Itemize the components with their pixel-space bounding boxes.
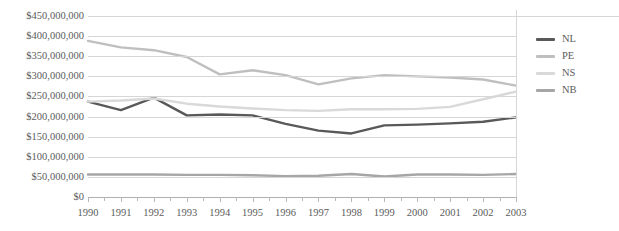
series-line-ns xyxy=(88,92,516,111)
x-axis-tick-label: 1996 xyxy=(275,208,296,219)
x-axis-tick xyxy=(516,197,517,202)
x-axis-tick xyxy=(318,197,319,202)
gridline xyxy=(88,137,516,138)
y-axis-tick-label: $400,000,000 xyxy=(2,31,84,42)
x-axis-tick xyxy=(417,197,418,202)
y-axis-labels: $450,000,000$400,000,000$350,000,000$300… xyxy=(0,0,84,231)
gridline xyxy=(88,96,516,97)
x-axis-minor-tick xyxy=(104,197,105,201)
gridline xyxy=(88,177,516,178)
line-chart: $450,000,000$400,000,000$350,000,000$300… xyxy=(0,0,619,231)
x-axis-tick-label: 2001 xyxy=(440,208,461,219)
x-axis-minor-tick xyxy=(401,197,402,201)
x-axis-tick-label: 1991 xyxy=(110,208,131,219)
x-axis-tick xyxy=(351,197,352,202)
legend-label: PE xyxy=(562,51,574,62)
y-axis-tick-label: $0 xyxy=(2,192,84,203)
x-axis-minor-tick xyxy=(269,197,270,201)
x-axis-tick xyxy=(88,197,89,202)
x-axis-tick-label: 2002 xyxy=(473,208,494,219)
x-axis-minor-tick xyxy=(137,197,138,201)
x-axis-minor-tick xyxy=(236,197,237,201)
series-line-nl xyxy=(88,98,516,134)
x-axis-tick xyxy=(483,197,484,202)
legend-divider xyxy=(516,10,517,198)
x-axis-tick-label: 2003 xyxy=(506,208,527,219)
x-axis-tick xyxy=(154,197,155,202)
y-axis-tick-label: $200,000,000 xyxy=(2,112,84,123)
gridline xyxy=(88,117,516,118)
y-axis-tick-label: $100,000,000 xyxy=(2,152,84,163)
x-axis-tick-label: 1998 xyxy=(341,208,362,219)
y-axis-tick-label: $300,000,000 xyxy=(2,71,84,82)
x-axis-tick-label: 1990 xyxy=(78,208,99,219)
x-axis-minor-tick xyxy=(368,197,369,201)
x-axis-minor-tick xyxy=(170,197,171,201)
x-axis-tick xyxy=(253,197,254,202)
legend-label: NL xyxy=(562,34,576,45)
legend-item-ns[interactable]: NS xyxy=(536,66,616,80)
legend-top-rule xyxy=(516,16,619,17)
x-axis-labels: 1990199119921993199419951996199719981999… xyxy=(88,202,516,222)
plot-area xyxy=(88,16,516,197)
x-axis-tick xyxy=(450,197,451,202)
x-axis-minor-tick xyxy=(203,197,204,201)
legend-label: NS xyxy=(562,68,575,79)
y-axis-tick-label: $150,000,000 xyxy=(2,132,84,143)
y-axis-tick-label: $350,000,000 xyxy=(2,51,84,62)
x-axis-tick-label: 1994 xyxy=(209,208,230,219)
x-axis-tick-label: 1995 xyxy=(242,208,263,219)
x-axis-tick xyxy=(384,197,385,202)
gridline xyxy=(88,16,516,17)
x-axis-tick xyxy=(286,197,287,202)
legend-swatch-icon xyxy=(536,55,555,58)
legend-swatch-icon xyxy=(536,89,555,92)
legend-item-pe[interactable]: PE xyxy=(536,49,616,63)
legend-item-nb[interactable]: NB xyxy=(536,83,616,97)
x-axis-tick-label: 1997 xyxy=(308,208,329,219)
legend-swatch-icon xyxy=(536,72,555,75)
y-axis-tick-label: $450,000,000 xyxy=(2,11,84,22)
x-axis-minor-tick xyxy=(500,197,501,201)
x-axis-tick-label: 1993 xyxy=(176,208,197,219)
legend-swatch-icon xyxy=(536,38,555,41)
chart-legend: NLPENSNB xyxy=(536,32,616,100)
gridline xyxy=(88,157,516,158)
x-axis-minor-tick xyxy=(467,197,468,201)
x-axis-minor-tick xyxy=(434,197,435,201)
gridline xyxy=(88,76,516,77)
x-axis-tick xyxy=(220,197,221,202)
x-axis-minor-tick xyxy=(335,197,336,201)
x-axis-tick-label: 2000 xyxy=(407,208,428,219)
x-axis-minor-tick xyxy=(302,197,303,201)
y-axis-tick-label: $50,000,000 xyxy=(2,172,84,183)
x-axis-tick-label: 1992 xyxy=(143,208,164,219)
series-layer xyxy=(88,16,516,197)
series-line-pe xyxy=(88,41,516,86)
legend-item-nl[interactable]: NL xyxy=(536,32,616,46)
legend-label: NB xyxy=(562,85,577,96)
x-axis-tick xyxy=(187,197,188,202)
gridline xyxy=(88,36,516,37)
y-axis-tick-label: $250,000,000 xyxy=(2,91,84,102)
x-axis-tick xyxy=(121,197,122,202)
x-axis-tick-label: 1999 xyxy=(374,208,395,219)
gridline xyxy=(88,56,516,57)
